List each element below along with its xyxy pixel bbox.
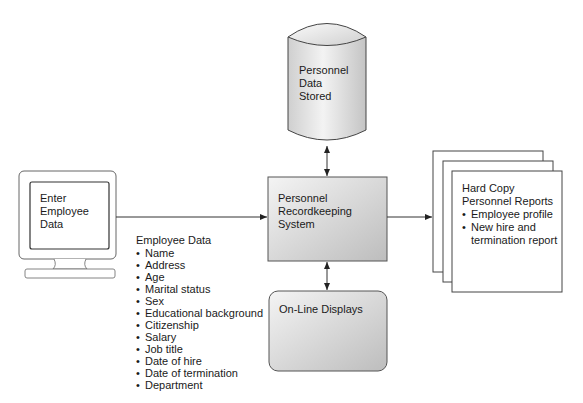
employee-data-item: Name (136, 247, 263, 259)
reports-text-block: Hard Copy Personnel Reports Employee pro… (462, 182, 557, 247)
terminal-label: Enter Employee Data (40, 192, 89, 231)
employee-data-list: Employee Data Name Address Age Marital s… (136, 234, 263, 391)
reports-title: Hard Copy Personnel Reports (462, 182, 557, 208)
employee-data-item: Citizenship (136, 319, 263, 331)
database-label: Personnel Data Stored (299, 64, 349, 103)
reports-item: Employee profile (462, 208, 557, 221)
reports-item: New hire and termination report (462, 221, 557, 247)
employee-data-item: Age (136, 271, 263, 283)
employee-data-item: Date of hire (136, 355, 263, 367)
displays-label: On-Line Displays (279, 303, 363, 316)
employee-data-item: Job title (136, 343, 263, 355)
employee-data-item: Salary (136, 331, 263, 343)
employee-data-item: Marital status (136, 283, 263, 295)
employee-data-item: Educational background (136, 307, 263, 319)
employee-data-item: Sex (136, 295, 263, 307)
employee-data-title: Employee Data (136, 234, 263, 247)
employee-data-item: Address (136, 259, 263, 271)
employee-data-item: Department (136, 379, 263, 391)
employee-data-item: Date of termination (136, 367, 263, 379)
system-label: Personnel Recordkeeping System (278, 192, 352, 231)
